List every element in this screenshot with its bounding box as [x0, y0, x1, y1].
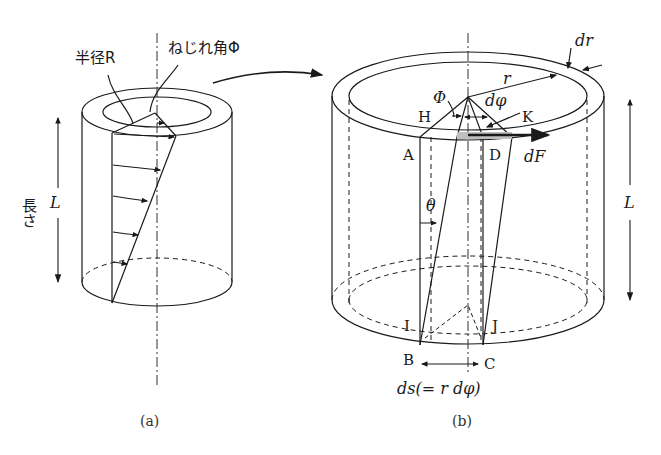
length-symbol-a: L	[49, 193, 61, 212]
point-B: B	[403, 351, 414, 369]
point-H: H	[418, 108, 431, 126]
r-label: r	[503, 69, 512, 88]
theta-label: θ	[426, 196, 436, 215]
point-C: C	[484, 355, 495, 373]
dphi-label: dφ	[485, 91, 507, 110]
displacement-arrows	[113, 123, 174, 264]
figure-a-cylinder	[82, 33, 232, 385]
radius-label: 半径R	[75, 49, 115, 67]
twist-angle-label: ねじれ角Φ	[168, 39, 240, 57]
dr-label: dr	[575, 31, 594, 50]
length-symbol-b: L	[623, 193, 635, 212]
transition-arrow-icon	[213, 72, 322, 83]
torsion-diagram: 半径R ねじれ角Φ 長さ L (a)	[0, 0, 661, 455]
point-A: A	[402, 146, 414, 164]
point-D: D	[489, 146, 501, 164]
caption-a: (a)	[140, 413, 159, 429]
force-label: dF	[524, 147, 546, 166]
ds-label: ds(= r dφ)	[397, 379, 481, 398]
caption-b: (b)	[452, 413, 472, 429]
point-J: J	[490, 317, 498, 335]
point-I: I	[404, 317, 410, 335]
point-K: K	[522, 108, 534, 126]
length-label-jp: 長さ	[19, 198, 37, 228]
phi-label: Φ	[433, 88, 446, 107]
figure-b-cylinder	[332, 33, 604, 375]
